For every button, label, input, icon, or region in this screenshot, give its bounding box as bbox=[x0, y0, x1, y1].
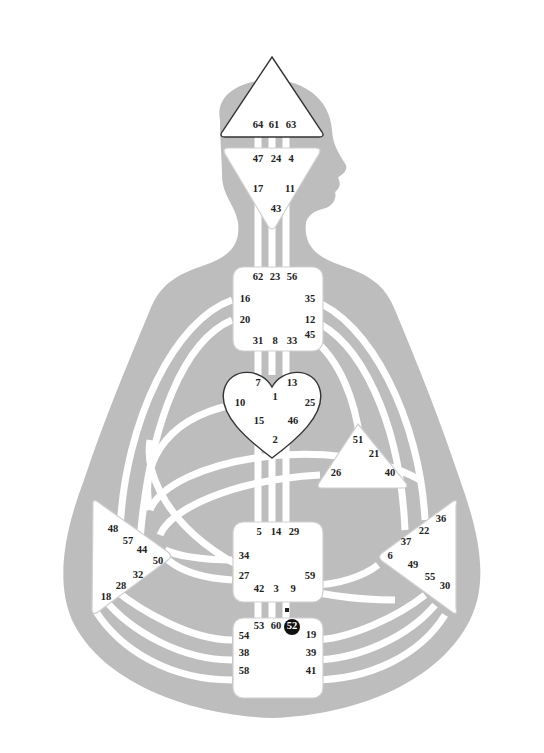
gate-31[interactable]: 31 bbox=[253, 335, 264, 346]
gate-28[interactable]: 28 bbox=[116, 580, 127, 591]
gate-57[interactable]: 57 bbox=[123, 535, 134, 546]
active-marker bbox=[285, 608, 289, 612]
gate-61[interactable]: 61 bbox=[269, 119, 280, 130]
gate-14[interactable]: 14 bbox=[271, 526, 282, 537]
gate-52[interactable]: 52 bbox=[287, 620, 298, 631]
gate-17[interactable]: 17 bbox=[253, 183, 264, 194]
gate-22[interactable]: 22 bbox=[419, 525, 430, 536]
sacral-center[interactable]: 5 14 29 34 27 59 42 3 9 bbox=[233, 522, 323, 602]
gate-29[interactable]: 29 bbox=[289, 526, 300, 537]
gate-33[interactable]: 33 bbox=[287, 335, 298, 346]
gate-60[interactable]: 60 bbox=[271, 620, 282, 631]
gate-58[interactable]: 58 bbox=[239, 665, 250, 676]
gate-13[interactable]: 13 bbox=[287, 377, 298, 388]
gate-9[interactable]: 9 bbox=[290, 583, 295, 594]
throat-center[interactable]: 62 23 56 16 35 20 12 45 31 8 33 bbox=[233, 267, 323, 351]
gate-64[interactable]: 64 bbox=[253, 119, 264, 130]
gate-40[interactable]: 40 bbox=[385, 467, 396, 478]
gate-56[interactable]: 56 bbox=[287, 271, 298, 282]
gate-38[interactable]: 38 bbox=[239, 647, 250, 658]
gate-41[interactable]: 41 bbox=[306, 665, 317, 676]
gate-4[interactable]: 4 bbox=[288, 153, 294, 164]
gate-34[interactable]: 34 bbox=[239, 550, 250, 561]
gate-30[interactable]: 30 bbox=[440, 580, 451, 591]
bodygraph: 64 61 63 47 24 4 17 11 43 62 23 56 16 35… bbox=[0, 0, 544, 753]
gate-32[interactable]: 32 bbox=[133, 569, 144, 580]
gate-62[interactable]: 62 bbox=[253, 271, 264, 282]
gate-54[interactable]: 54 bbox=[239, 630, 250, 641]
gate-53[interactable]: 53 bbox=[254, 620, 265, 631]
gate-23[interactable]: 23 bbox=[270, 271, 281, 282]
gate-16[interactable]: 16 bbox=[240, 293, 251, 304]
gate-21[interactable]: 21 bbox=[369, 448, 380, 459]
gate-43[interactable]: 43 bbox=[271, 203, 282, 214]
root-center[interactable]: 53 60 52 54 19 38 39 58 41 bbox=[233, 608, 323, 698]
gate-11[interactable]: 11 bbox=[285, 183, 295, 194]
gate-7[interactable]: 7 bbox=[255, 377, 260, 388]
gate-48[interactable]: 48 bbox=[108, 523, 119, 534]
gate-3[interactable]: 3 bbox=[273, 583, 278, 594]
gate-25[interactable]: 25 bbox=[305, 397, 316, 408]
gate-19[interactable]: 19 bbox=[306, 629, 317, 640]
gate-55[interactable]: 55 bbox=[425, 571, 436, 582]
gate-20[interactable]: 20 bbox=[240, 314, 251, 325]
gate-27[interactable]: 27 bbox=[239, 570, 250, 581]
gate-1[interactable]: 1 bbox=[272, 391, 277, 402]
gate-45[interactable]: 45 bbox=[305, 329, 316, 340]
gate-47[interactable]: 47 bbox=[253, 153, 264, 164]
gate-50[interactable]: 50 bbox=[153, 555, 164, 566]
gate-36[interactable]: 36 bbox=[436, 513, 447, 524]
gate-12[interactable]: 12 bbox=[305, 314, 316, 325]
gate-24[interactable]: 24 bbox=[271, 153, 282, 164]
gate-26[interactable]: 26 bbox=[331, 467, 342, 478]
gate-10[interactable]: 10 bbox=[235, 397, 246, 408]
gate-44[interactable]: 44 bbox=[137, 544, 148, 555]
gate-59[interactable]: 59 bbox=[305, 570, 316, 581]
gate-37[interactable]: 37 bbox=[401, 536, 412, 547]
gate-49[interactable]: 49 bbox=[408, 559, 419, 570]
gate-42[interactable]: 42 bbox=[254, 583, 265, 594]
gate-15[interactable]: 15 bbox=[254, 415, 265, 426]
gate-63[interactable]: 63 bbox=[286, 119, 297, 130]
gate-39[interactable]: 39 bbox=[306, 647, 317, 658]
gate-46[interactable]: 46 bbox=[288, 415, 299, 426]
gate-18[interactable]: 18 bbox=[101, 591, 112, 602]
gate-2[interactable]: 2 bbox=[272, 434, 277, 445]
gate-51[interactable]: 51 bbox=[353, 434, 364, 445]
gate-6[interactable]: 6 bbox=[387, 550, 392, 561]
gate-35[interactable]: 35 bbox=[305, 293, 316, 304]
gate-5[interactable]: 5 bbox=[256, 526, 261, 537]
gate-8[interactable]: 8 bbox=[272, 335, 277, 346]
